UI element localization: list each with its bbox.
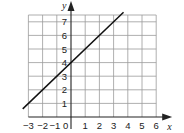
axes <box>28 1 172 129</box>
x-axis-arrow-icon <box>162 114 172 121</box>
y-tick-label: 5 <box>62 44 67 55</box>
x-tick-label: 4 <box>125 120 130 131</box>
x-tick-label: −3 <box>23 120 34 131</box>
x-tick-label: 1 <box>83 120 88 131</box>
x-tick-label: 3 <box>111 120 116 131</box>
x-tick-label: −2 <box>37 120 48 131</box>
y-tick-label: 2 <box>62 84 67 95</box>
y-tick-label: 3 <box>62 71 67 82</box>
y-tick-label: 6 <box>62 30 67 41</box>
x-tick-label: 6 <box>154 120 159 131</box>
x-axis-label: x <box>166 121 172 132</box>
y-axis-label: y <box>61 0 67 11</box>
x-tick-label: 5 <box>139 120 144 131</box>
y-tick-label: 1 <box>62 98 67 109</box>
x-tick-label: 2 <box>97 120 102 131</box>
x-tick-label: −1 <box>49 120 60 131</box>
y-axis-arrow-icon <box>68 1 75 11</box>
grid <box>28 15 156 117</box>
line-graph: −3−2−101234561234567 x y <box>0 0 184 133</box>
y-tick-label: 7 <box>62 16 67 27</box>
series-layer <box>23 12 124 109</box>
y-tick-label: 4 <box>62 57 67 68</box>
series-line <box>23 12 124 109</box>
tick-labels: −3−2−101234561234567 <box>23 16 159 131</box>
x-tick-label: 0 <box>63 120 68 131</box>
